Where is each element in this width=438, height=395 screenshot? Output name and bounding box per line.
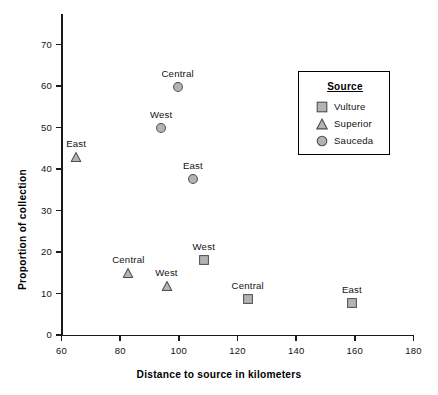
data-point-superior-central [123,268,134,279]
x-tick-mark [237,336,238,341]
x-tick-mark [295,336,296,341]
legend-title: Source [299,81,391,92]
data-point-label: Central [112,254,144,265]
legend-item-label: Sauceda [334,135,373,146]
y-tick-label: 70 [22,39,52,50]
legend-item-label: Vulture [334,101,365,112]
legend-item-superior[interactable]: Superior [315,117,372,130]
x-tick-mark [413,336,414,341]
triangle-marker-icon [315,117,328,130]
x-tick-mark [354,336,355,341]
y-tick-mark [56,127,61,128]
data-point-label: West [155,267,177,278]
x-tick-label: 160 [337,345,373,356]
legend-item-label: Superior [334,118,372,129]
data-point-label: West [193,241,215,252]
data-point-label: East [342,284,362,295]
y-tick-label: 60 [22,80,52,91]
x-tick-mark [178,336,179,341]
legend-box: Source VultureSuperiorSauceda [298,71,390,155]
data-point-sauceda-central [172,81,183,92]
data-point-vulture-central [242,293,253,304]
y-tick-label: 50 [22,122,52,133]
y-tick-mark [56,293,61,294]
scatter-plot-figure: 010203040506070 6080100120140160180 West… [0,0,438,395]
x-tick-label: 80 [102,345,138,356]
circle-marker-icon [315,134,328,147]
y-tick-label: 0 [22,329,52,340]
x-axis-title: Distance to source in kilometers [0,369,438,380]
x-tick-label: 100 [161,345,197,356]
y-axis-title: Proportion of collection [17,169,28,290]
data-point-sauceda-west [156,123,167,134]
x-tick-label: 180 [396,345,432,356]
data-point-superior-west [161,281,172,292]
data-point-vulture-west [198,254,209,265]
data-point-sauceda-east [187,174,198,185]
x-tick-mark [119,336,120,341]
y-tick-mark [56,168,61,169]
x-tick-label: 120 [220,345,256,356]
data-point-label: East [66,138,86,149]
data-point-label: Central [232,280,264,291]
data-point-label: West [150,109,172,120]
legend-item-vulture[interactable]: Vulture [315,100,365,113]
x-tick-mark [61,336,62,341]
x-tick-label: 60 [44,345,80,356]
data-point-superior-east [71,151,82,162]
y-tick-mark [56,85,61,86]
data-point-vulture-east [346,298,357,309]
y-tick-mark [56,251,61,252]
y-axis-line [61,14,63,336]
y-tick-mark [56,210,61,211]
data-point-label: Central [161,68,193,79]
legend-item-sauceda[interactable]: Sauceda [315,134,373,147]
x-tick-label: 140 [278,345,314,356]
square-marker-icon [315,100,328,113]
data-point-label: East [183,160,203,171]
y-tick-mark [56,44,61,45]
